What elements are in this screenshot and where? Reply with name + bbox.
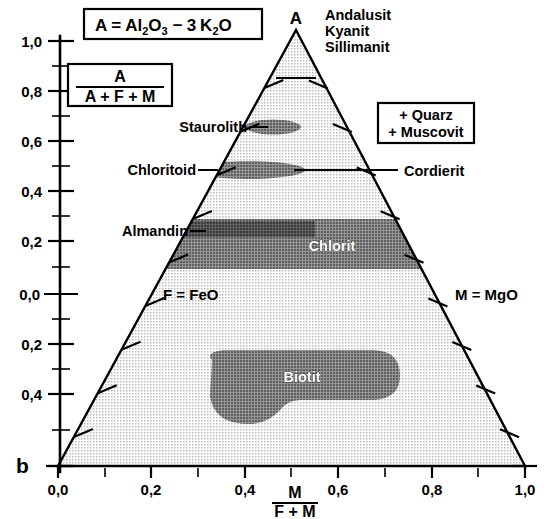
def-K: K — [200, 16, 213, 35]
vertex-label-a: A — [290, 9, 302, 28]
y-tick-4: 0,4 — [21, 183, 43, 200]
apex-mineral-sillimanit: Sillimanit — [325, 39, 390, 55]
ratio-box: A A + F + M — [68, 64, 172, 106]
def-O: O — [148, 16, 161, 35]
label-chlorit: Chlorit — [309, 238, 356, 254]
excess-phase-quarz: + Quarz — [399, 107, 453, 123]
panel-label: b — [16, 454, 29, 477]
def-sub3: 3 — [162, 25, 168, 37]
x-tick-5: 0,8 — [422, 481, 443, 498]
vertex-label-m: M = MgO — [455, 286, 518, 303]
label-almandin: Almandin — [122, 223, 188, 239]
label-chloritoid: Chloritoid — [128, 162, 196, 178]
apex-mineral-kyanit: Kyanit — [325, 23, 369, 39]
label-biotit: Biotit — [283, 369, 320, 385]
ratio-denominator: A + F + M — [85, 88, 156, 105]
def-A: A — [95, 16, 107, 35]
excess-phase-muscovit: + Muscovit — [388, 124, 464, 140]
def-Al: Al — [125, 16, 142, 35]
y-tick-6: 0,0 — [19, 286, 40, 303]
x-tick-3: 0,4 — [235, 481, 257, 498]
label-staurolith: Staurolith — [179, 119, 247, 135]
y-tick-8: 0,4 — [21, 386, 43, 403]
definition-box: A=Al2O3−3K2O — [84, 9, 262, 39]
excess-phases-box: + Quarz + Muscovit — [378, 103, 474, 143]
x-axis-numerator: M — [288, 484, 301, 501]
def-O2: O — [219, 16, 232, 35]
y-tick-1: 1,0 — [21, 33, 42, 50]
def-minus: − — [173, 16, 183, 35]
x-tick-6: 1,0 — [515, 481, 536, 498]
def-3: 3 — [187, 16, 196, 35]
y-tick-5: 0,2 — [21, 233, 42, 250]
def-eq: = — [111, 16, 121, 35]
label-cordierit: Cordierit — [404, 163, 465, 179]
figure-root: 1,0 0,8 0,6 0,4 0,2 0,0 0,2 0,4 0,0 — [0, 0, 560, 519]
vertex-label-f: F = FeO — [163, 286, 219, 303]
x-axis-denominator: F + M — [274, 503, 315, 519]
y-tick-7: 0,2 — [21, 336, 42, 353]
y-tick-2: 0,8 — [21, 83, 42, 100]
x-tick-2: 0,2 — [141, 481, 162, 498]
x-tick-4: 0,6 — [328, 481, 349, 498]
ratio-numerator: A — [114, 68, 126, 85]
apex-mineral-andalusit: Andalusit — [325, 7, 391, 23]
y-tick-3: 0,6 — [21, 133, 42, 150]
afm-ternary-diagram: 1,0 0,8 0,6 0,4 0,2 0,0 0,2 0,4 0,0 — [0, 0, 560, 519]
x-tick-1: 0,0 — [48, 481, 69, 498]
